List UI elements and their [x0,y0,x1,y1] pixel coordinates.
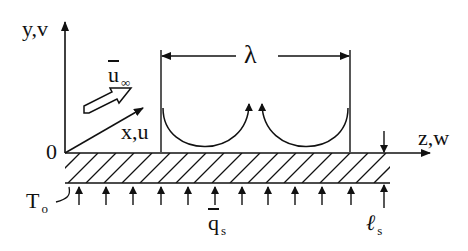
wavelength-label: λ [244,42,257,68]
z-axis-label: z,w [418,127,449,149]
heat-flux-label: qs [208,212,226,234]
wall-temperature-symbol: T [26,188,39,213]
freestream-velocity-label: u∞ [108,64,130,86]
wall-thickness-symbol: ℓ [366,210,375,235]
origin-label: 0 [46,141,57,163]
diagram-canvas: y,v x,u z,w 0 u∞ λ To qs ℓs [0,0,468,251]
heat-flux-symbol: q [208,210,219,235]
wall-temperature-subscript: o [41,201,48,216]
freestream-arrow-icon [84,88,131,113]
y-axis-label: y,v [22,18,48,40]
freestream-velocity-subscript: ∞ [121,75,130,90]
wall-thickness-label: ℓs [366,212,382,234]
temperature-leader [56,187,69,202]
wall-plate [50,153,404,183]
wall-temperature-label: To [26,190,48,212]
wall-thickness-subscript: s [377,223,382,238]
convection-cell-left [163,104,249,147]
x-axis-label: x,u [121,121,149,143]
convection-cell-right [262,104,348,147]
heat-flux-subscript: s [221,223,226,238]
heat-flux-arrows [79,187,351,205]
diagram-graphics [0,0,468,251]
freestream-velocity-symbol: u [108,62,119,87]
